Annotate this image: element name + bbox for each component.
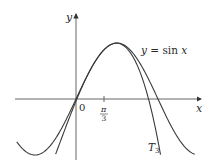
sin-curve-label: y = sin x <box>140 44 187 56</box>
taylor-diagram: y x 0 π 3 y = sin x T3 <box>0 0 214 166</box>
taylor-t3-label: T3 <box>148 141 159 155</box>
x-axis-label: x <box>196 102 203 115</box>
tick-numerator: π <box>100 105 107 114</box>
origin-label: 0 <box>79 102 85 113</box>
tick-denominator: 3 <box>102 114 107 123</box>
y-axis-label: y <box>65 11 73 24</box>
